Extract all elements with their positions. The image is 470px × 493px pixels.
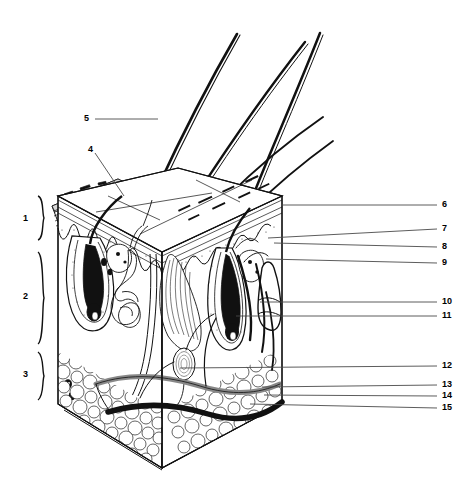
callout-label-13: 13 bbox=[442, 380, 452, 389]
callout-label-15: 15 bbox=[442, 403, 452, 412]
callout-label-8: 8 bbox=[442, 242, 447, 251]
callout-label-10: 10 bbox=[442, 297, 452, 306]
callout-label-7: 7 bbox=[442, 224, 447, 233]
bracket-label-2: 2 bbox=[14, 292, 28, 301]
callout-label-11: 11 bbox=[442, 311, 452, 320]
bracket-label-1: 1 bbox=[14, 214, 28, 223]
bracket-label-3: 3 bbox=[14, 370, 28, 379]
callout-label-4: 4 bbox=[88, 145, 93, 154]
callout-label-6: 6 bbox=[442, 200, 447, 209]
callout-label-5: 5 bbox=[84, 114, 89, 123]
callout-label-14: 14 bbox=[442, 391, 452, 400]
callout-label-9: 9 bbox=[442, 258, 447, 267]
callout-label-12: 12 bbox=[442, 361, 452, 370]
skin-cross-section-figure bbox=[0, 0, 470, 493]
